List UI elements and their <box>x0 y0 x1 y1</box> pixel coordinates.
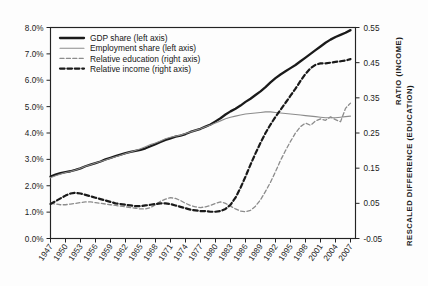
series-line-3 <box>51 59 351 212</box>
x-tick-label: 1986 <box>232 242 250 262</box>
x-axis-ticks: 1947195019531956195919621965196819711974… <box>37 239 355 263</box>
x-tick-label: 1977 <box>187 242 205 262</box>
x-tick-label: 1995 <box>277 242 295 262</box>
legend-label-0: GDP share (left axis) <box>90 33 168 43</box>
legend-label-3: Relative income (right axis) <box>90 64 191 74</box>
left-tick-label: 3.0% <box>25 155 44 164</box>
x-tick-label: 1992 <box>262 242 280 262</box>
right-tick-label: 0.55 <box>364 24 380 33</box>
x-tick-label: 1956 <box>82 242 100 262</box>
left-tick-label: 8.0% <box>25 24 44 33</box>
x-tick-label: 1947 <box>37 242 55 262</box>
x-tick-label: 1959 <box>97 242 115 262</box>
left-tick-label: 6.0% <box>25 76 44 85</box>
x-tick-label: 1971 <box>157 242 175 262</box>
x-tick-label: 1965 <box>127 242 145 262</box>
left-tick-label: 1.0% <box>25 208 44 217</box>
x-tick-label: 1962 <box>112 242 130 262</box>
x-tick-label: 1953 <box>67 242 85 262</box>
right-axis-ticks: -0.050.050.150.250.350.450.55 <box>356 24 383 244</box>
left-axis-ticks: 0.0%1.0%2.0%3.0%4.0%5.0%6.0%7.0%8.0% <box>25 24 51 244</box>
series-line-2 <box>51 103 351 212</box>
legend-label-1: Employment share (left axis) <box>90 43 196 53</box>
x-tick-label: 1974 <box>172 242 190 262</box>
right-tick-label: 0.25 <box>364 129 380 138</box>
right-tick-label: -0.05 <box>364 235 383 244</box>
left-tick-label: 2.0% <box>25 182 44 191</box>
legend-label-2: Relative education (right axis) <box>90 54 201 64</box>
right-tick-label: 0.05 <box>364 199 380 208</box>
left-tick-label: 0.0% <box>25 235 44 244</box>
left-tick-label: 4.0% <box>25 129 44 138</box>
x-tick-label: 1989 <box>247 242 265 262</box>
left-tick-label: 7.0% <box>25 50 44 59</box>
right-tick-label: 0.35 <box>364 94 380 103</box>
right-tick-label: 0.15 <box>364 164 380 173</box>
right-axis-title-line1: RATIO (INCOME) <box>394 37 403 105</box>
right-axis-title-line2: RESCALED DIFFERENCE (EDUCATION) <box>405 85 414 246</box>
x-tick-label: 1968 <box>142 242 160 262</box>
line-chart: 0.0%1.0%2.0%3.0%4.0%5.0%6.0%7.0%8.0% -0.… <box>0 0 428 286</box>
x-tick-label: 1950 <box>52 242 70 262</box>
chart-page: 0.0%1.0%2.0%3.0%4.0%5.0%6.0%7.0%8.0% -0.… <box>0 0 428 286</box>
x-tick-label: 1980 <box>202 242 220 262</box>
x-tick-label: 2007 <box>337 242 355 262</box>
x-tick-label: 1998 <box>292 242 310 262</box>
x-tick-label: 1983 <box>217 242 235 262</box>
x-tick-label: 2004 <box>322 242 340 262</box>
right-tick-label: 0.45 <box>364 59 380 68</box>
chart-legend: GDP share (left axis)Employment share (l… <box>60 33 201 74</box>
x-tick-label: 2001 <box>307 242 325 262</box>
series-line-1 <box>51 112 351 178</box>
left-tick-label: 5.0% <box>25 103 44 112</box>
